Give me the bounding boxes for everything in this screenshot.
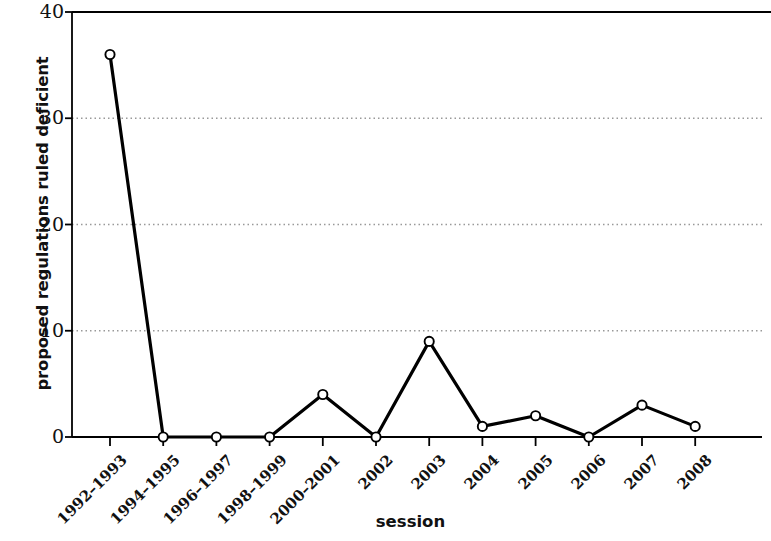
data-point-marker	[637, 401, 646, 410]
data-point-marker	[212, 432, 221, 441]
data-point-marker	[105, 50, 114, 59]
data-line	[110, 55, 695, 438]
y-axis-tick-label: 0	[30, 427, 64, 446]
data-point-marker	[691, 422, 700, 431]
x-axis-title: session	[0, 512, 771, 531]
data-point-marker	[478, 422, 487, 431]
data-point-marker	[159, 432, 168, 441]
y-axis-ticks	[65, 12, 72, 437]
gridlines	[72, 118, 762, 331]
data-point-marker	[318, 390, 327, 399]
chart-container: proposed regulations ruled deficient 010…	[0, 0, 771, 541]
y-axis-tick-label: 40	[30, 2, 64, 21]
data-point-marker	[425, 337, 434, 346]
data-point-marker	[371, 432, 380, 441]
data-markers	[105, 50, 699, 442]
y-axis-tick-label: 30	[30, 108, 64, 127]
data-point-marker	[584, 432, 593, 441]
y-axis-tick-labels: 010203040	[24, 0, 64, 460]
data-point-marker	[265, 432, 274, 441]
data-point-marker	[531, 411, 540, 420]
y-axis-tick-label: 10	[30, 321, 64, 340]
y-axis-tick-label: 20	[30, 215, 64, 234]
plot-area	[0, 0, 771, 541]
